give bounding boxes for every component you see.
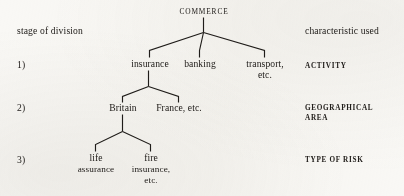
characteristic-geographical-line2: AREA [305,113,328,123]
tree-node-commerce: COMMERCE [178,8,230,16]
column-header-left: stage of division [17,26,83,37]
diagram-canvas: stage of division characteristic used CO… [0,0,404,196]
connector-britain-to-life [96,132,123,152]
connector-insurance-to-britain [123,87,149,103]
tree-node-fire: fire [126,153,176,164]
tree-node-life-line2: assurance [67,164,125,174]
tree-node-transport-line2: etc. [237,70,293,81]
tree-node-fire-line3: etc. [120,175,182,185]
row-number-1: 1) [17,60,25,71]
tree-node-banking: banking [177,59,223,70]
tree-node-insurance: insurance [122,59,178,70]
tree-node-life: life [71,153,121,164]
connector-root-to-banking [200,33,204,58]
connector-britain-to-fire [123,132,151,152]
column-header-right: characteristic used [305,26,379,37]
tree-node-fire-line2: insurance, [120,164,182,174]
row-number-3: 3) [17,155,25,166]
connector-root-to-transport [204,33,265,58]
tree-node-britain: Britain [98,103,148,114]
connector-root-to-insurance [150,33,204,58]
row-number-2: 2) [17,103,25,114]
characteristic-type-of-risk: TYPE OF RISK [305,155,363,165]
characteristic-geographical: GEOGRAPHICAL [305,103,373,113]
tree-node-france: France, etc. [150,103,208,114]
connector-insurance-to-france [149,87,179,103]
characteristic-activity: ACTIVITY [305,61,347,71]
